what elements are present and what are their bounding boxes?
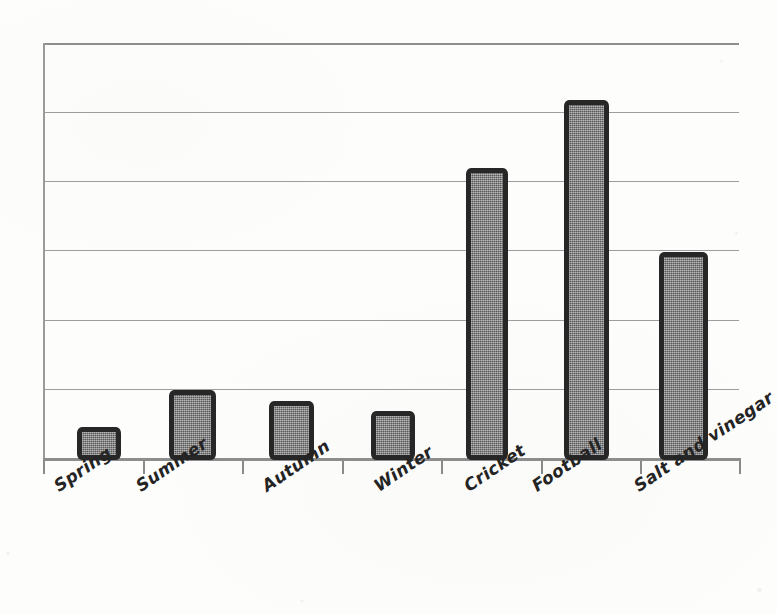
bar-chart: SpringSummerAutumnWinterCricketFootballS… — [0, 0, 777, 614]
x-axis-tick — [342, 461, 344, 474]
scan-speckle — [720, 60, 723, 62]
gridline — [43, 181, 739, 182]
scan-speckle — [300, 600, 304, 602]
gridline — [43, 320, 739, 321]
plot-frame-top — [43, 43, 739, 45]
plot-frame-left — [43, 43, 45, 462]
bar[interactable] — [466, 168, 508, 460]
x-axis-tick — [739, 461, 741, 474]
x-axis-tick — [242, 461, 244, 474]
x-axis-tick — [441, 461, 443, 474]
bar[interactable] — [659, 252, 708, 460]
scan-speckle — [6, 552, 10, 555]
gridline — [43, 250, 739, 251]
bar[interactable] — [564, 100, 609, 460]
scan-speckle — [757, 588, 762, 592]
plot-area — [43, 43, 739, 460]
gridline — [43, 389, 739, 390]
x-axis-tick — [43, 461, 45, 474]
gridline — [43, 112, 739, 113]
scan-speckle — [735, 232, 738, 235]
